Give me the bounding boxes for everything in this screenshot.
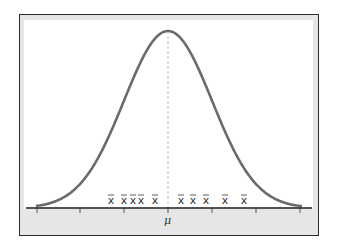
sample-mean-label: x: [121, 194, 128, 207]
sample-mean-label: x: [241, 194, 248, 207]
normal-curve: [36, 31, 302, 206]
sample-mean-label: x: [178, 194, 185, 207]
sample-mean-label: x: [203, 194, 210, 207]
sample-mean-label: x: [130, 194, 137, 207]
sample-mean-label: x: [138, 194, 145, 207]
sample-means: xxxxxxxxxx: [108, 194, 248, 207]
sample-mean-label: x: [152, 194, 159, 207]
sample-mean-label: x: [222, 194, 229, 207]
mu-label: μ: [164, 214, 171, 227]
sample-mean-label: x: [190, 194, 197, 207]
sample-mean-label: x: [108, 194, 115, 207]
